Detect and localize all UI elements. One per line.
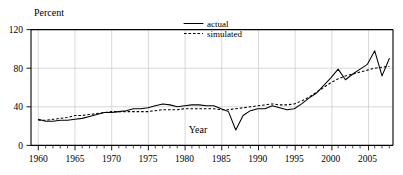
legend-label-simulated: simulated — [207, 29, 242, 39]
x-axis-title: Year — [189, 124, 208, 135]
x-tick-marks-group — [38, 145, 368, 150]
x-tick-label: 1985 — [212, 154, 231, 164]
y-tick-label: 40 — [14, 102, 24, 112]
legend: actual simulated — [184, 19, 242, 39]
x-tick-labels-group: 1960196519701975198019851990199520002005 — [29, 154, 377, 164]
x-tick-label: 1960 — [29, 154, 48, 164]
y-tick-label: 80 — [14, 64, 24, 74]
series-line-actual — [38, 51, 389, 130]
chart-figure: 04080120 1960196519701975198019851990199… — [0, 0, 403, 175]
axes-group — [31, 30, 393, 146]
series-line-simulated — [38, 66, 389, 120]
y-tick-marks-group — [27, 30, 32, 146]
x-tick-label: 1995 — [285, 154, 304, 164]
y-axis-title: Percent — [34, 7, 64, 18]
x-tick-label: 1965 — [65, 154, 84, 164]
x-tick-label: 1975 — [139, 154, 158, 164]
x-tick-label: 2000 — [321, 154, 340, 164]
legend-label-actual: actual — [207, 19, 229, 29]
x-tick-label: 1990 — [248, 154, 267, 164]
y-tick-labels-group: 04080120 — [9, 25, 24, 151]
x-tick-label: 1970 — [102, 154, 121, 164]
x-tick-label: 1980 — [175, 154, 194, 164]
y-tick-label: 0 — [18, 141, 23, 151]
gridlines-group — [31, 30, 393, 146]
x-tick-label: 2005 — [358, 154, 377, 164]
line-chart-svg: 04080120 1960196519701975198019851990199… — [0, 0, 403, 175]
y-tick-label: 120 — [9, 25, 24, 35]
